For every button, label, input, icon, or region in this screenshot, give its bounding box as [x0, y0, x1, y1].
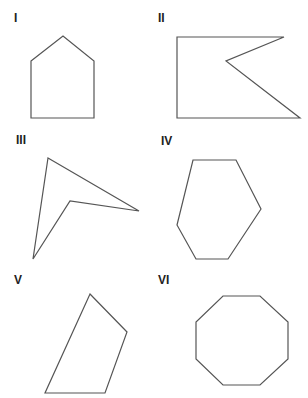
shape-iv-hexagon [177, 160, 261, 259]
shape-iii-dart [33, 158, 139, 259]
shapes-canvas [0, 0, 308, 398]
shape-ii-concave-pentagon [177, 37, 300, 118]
shape-i-pentagon [31, 36, 94, 118]
shape-v-quadrilateral [45, 294, 127, 393]
shape-vi-octagon [196, 296, 288, 385]
